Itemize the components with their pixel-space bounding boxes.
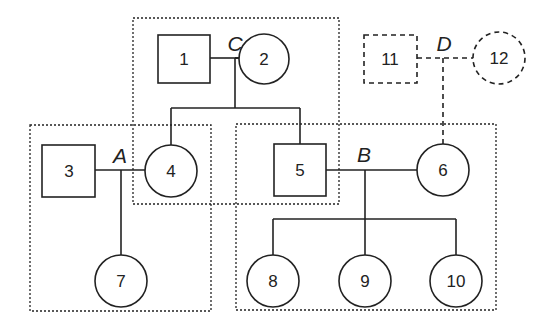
svg-text:1: 1 [179,50,188,69]
svg-text:8: 8 [268,272,277,291]
node-4: 4 [145,145,197,197]
pedigree-diagram: 1 2 3 4 5 6 7 8 9 10 11 12 [0,0,549,333]
node-1: 1 [158,35,210,83]
couple-label-b: B [357,143,371,166]
svg-text:12: 12 [490,49,509,68]
node-8: 8 [247,255,299,307]
svg-text:2: 2 [259,50,268,69]
couple-label-c: C [227,32,243,55]
svg-text:4: 4 [166,162,175,181]
svg-text:10: 10 [447,272,466,291]
svg-text:11: 11 [381,50,399,69]
node-5: 5 [274,144,326,196]
svg-text:5: 5 [295,161,304,180]
svg-text:3: 3 [64,162,73,181]
node-10: 10 [430,255,482,307]
svg-text:6: 6 [438,161,447,180]
node-7: 7 [95,255,147,307]
node-3: 3 [42,145,95,197]
couple-label-d: D [436,32,451,55]
svg-text:9: 9 [360,272,369,291]
node-6: 6 [417,144,469,196]
node-2: 2 [239,34,289,84]
node-11: 11 [364,35,417,83]
node-12: 12 [473,32,525,84]
couple-label-a: A [111,144,127,167]
node-9: 9 [339,255,391,307]
svg-text:7: 7 [116,272,125,291]
